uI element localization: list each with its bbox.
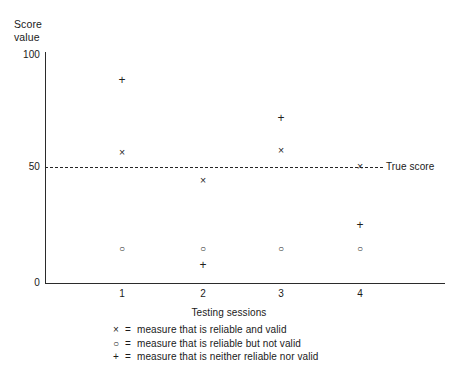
x-tick-label-1: 1	[111, 288, 133, 299]
data-point-plus-session-3: +	[274, 113, 288, 125]
data-point-plus-session-2: +	[196, 260, 210, 272]
y-tick-label-50: 50	[10, 161, 40, 172]
legend-symbol-cross-icon: ×	[113, 323, 125, 337]
data-point-circle-session-3: ○	[274, 243, 288, 255]
y-axis-title: Score value	[14, 18, 42, 43]
legend-item-plus: + = measure that is neither reliable nor…	[0, 350, 458, 364]
y-axis-line	[45, 52, 46, 284]
true-score-label: True score	[386, 161, 434, 172]
legend-label-cross: measure that is reliable and valid	[137, 323, 287, 337]
data-point-cross-session-1: ×	[115, 147, 129, 159]
data-point-cross-session-2: ×	[196, 175, 210, 187]
data-point-circle-session-1: ○	[115, 243, 129, 255]
data-point-cross-session-4: ×	[353, 161, 367, 173]
x-tick-label-3: 3	[270, 288, 292, 299]
legend-equals-sign-1: =	[125, 337, 137, 351]
legend-symbol-plus-icon: +	[113, 350, 125, 364]
data-point-circle-session-4: ○	[353, 243, 367, 255]
legend-equals-sign-0: =	[125, 323, 137, 337]
x-tick-label-2: 2	[192, 288, 214, 299]
legend-item-cross: × = measure that is reliable and valid	[0, 323, 458, 337]
chart-legend: × = measure that is reliable and valid ○…	[0, 323, 458, 364]
data-point-cross-session-3: ×	[274, 145, 288, 157]
data-point-circle-session-2: ○	[196, 243, 210, 255]
legend-equals-sign-2: =	[125, 350, 137, 364]
legend-symbol-circle-icon: ○	[113, 337, 125, 351]
legend-item-circle: ○ = measure that is reliable but not val…	[0, 337, 458, 351]
legend-label-circle: measure that is reliable but not valid	[137, 337, 301, 351]
x-tick-label-4: 4	[349, 288, 371, 299]
data-point-plus-session-1: +	[115, 75, 129, 87]
scatter-chart: Score value 100 50 0 True score + × ○ × …	[0, 0, 458, 381]
legend-label-plus: measure that is neither reliable nor val…	[137, 350, 319, 364]
true-score-line	[45, 167, 383, 168]
y-tick-label-0: 0	[10, 277, 40, 288]
y-tick-label-100: 100	[10, 49, 40, 60]
x-axis-line	[45, 283, 445, 284]
data-point-plus-session-4: +	[353, 220, 367, 232]
x-axis-title: Testing sessions	[0, 307, 458, 318]
